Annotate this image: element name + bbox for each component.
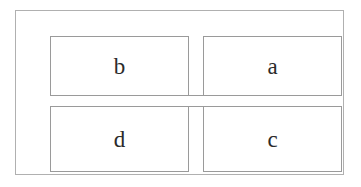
quadrant-label-a: a	[267, 55, 277, 78]
figure-outer-frame: b a d c	[15, 10, 344, 175]
quadrant-cell-bottom-right: c	[203, 106, 342, 172]
quadrant-cell-bottom-left: d	[50, 106, 189, 172]
quadrant-label-b: b	[114, 55, 126, 78]
quadrant-cell-top-right: a	[203, 36, 342, 96]
quadrant-label-c: c	[267, 128, 277, 151]
quadrant-label-d: d	[114, 128, 126, 151]
quadrant-cell-top-left: b	[50, 36, 189, 96]
quadrant-matrix: b a d c	[50, 36, 342, 172]
